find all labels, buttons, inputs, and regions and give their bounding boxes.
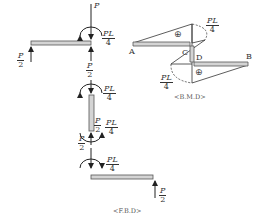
fbd-column-bottom-force-label: P 2 — [94, 117, 101, 134]
bmd-frame — [133, 42, 248, 66]
bmd-lower-positive-sign: ⊕ — [195, 68, 203, 77]
bmd-upper-triangle — [133, 24, 192, 43]
bmd-point-b: B — [246, 53, 252, 61]
bmd-point-d: D — [196, 54, 202, 62]
denominator: 4 — [160, 83, 173, 91]
bmd-upper-positive-sign: ⊕ — [174, 30, 182, 39]
fbd-top-beam — [31, 41, 91, 45]
denominator: 4 — [102, 39, 115, 47]
bmd-upper-dashed-arc — [192, 24, 207, 40]
fbd-applied-force-label: P — [94, 2, 99, 10]
fbd-lower-joint-force-label: P 2 — [78, 135, 85, 152]
denominator: 4 — [106, 165, 119, 173]
fbd-lower-joint-moment-label: PL 4 — [106, 156, 119, 173]
denominator: 2 — [78, 144, 85, 152]
fbd-caption: <F.B.D> — [113, 208, 142, 215]
bmd-upper-moment-label: PL 4 — [206, 17, 219, 34]
denominator: 2 — [159, 196, 166, 204]
bmd-lower-moment-label: PL 4 — [160, 74, 173, 91]
fbd-bottom-right-reaction-label: P 2 — [159, 187, 166, 204]
bmd-point-c: C — [182, 49, 188, 57]
denominator: 4 — [206, 26, 219, 34]
denominator: 2 — [17, 61, 24, 69]
denominator: 4 — [103, 94, 116, 102]
bmd-point-a: A — [129, 48, 135, 56]
fbd-bottom-beam — [91, 175, 153, 179]
fbd-column-bottom-moment-label: PL 4 — [105, 119, 118, 136]
fbd-top-right-reaction-label: P 2 — [86, 62, 93, 79]
bmd-lower-dashed-arc — [171, 64, 192, 83]
fbd-column-top-moment-label: PL 4 — [103, 85, 116, 102]
denominator: 4 — [105, 128, 118, 136]
bmd-caption: <B.M.D> — [174, 94, 206, 101]
denominator: 2 — [86, 71, 93, 79]
diagram-canvas — [0, 0, 259, 220]
denominator: 2 — [94, 126, 101, 134]
fbd-top-moment-label: PL 4 — [102, 30, 115, 47]
fbd-top-left-reaction-label: P 2 — [17, 52, 24, 69]
